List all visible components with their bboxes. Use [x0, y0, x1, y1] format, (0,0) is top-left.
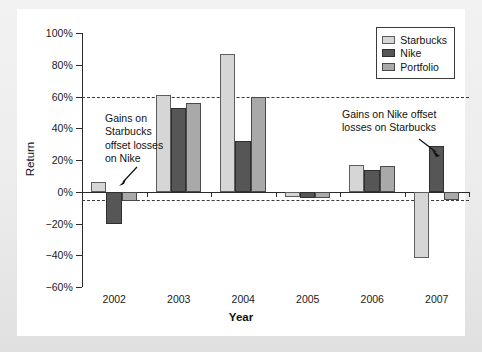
x-tick: [82, 192, 83, 197]
bar-portfolio-2005: [315, 192, 330, 198]
bar-nike-2003: [171, 108, 186, 192]
annotation-left-arrow: [115, 165, 141, 187]
x-tick: [211, 192, 212, 197]
bar-starbucks-2005: [285, 192, 300, 197]
legend-item-starbucks: Starbucks: [382, 34, 447, 46]
legend-label-nike: Nike: [400, 47, 421, 59]
bar-portfolio-2002: [122, 192, 137, 202]
bar-portfolio-2003: [186, 103, 201, 192]
legend-item-portfolio: Portfolio: [382, 61, 447, 73]
legend-item-nike: Nike: [382, 47, 447, 59]
x-axis-label-2005: 2005: [296, 293, 319, 305]
bar-nike-2004: [235, 141, 250, 192]
annotation-right-arrow: [417, 137, 447, 159]
bar-starbucks-2002: [91, 182, 106, 192]
legend-swatch-nike: [382, 49, 395, 57]
y-tick: [76, 160, 82, 161]
bar-portfolio-2004: [251, 97, 266, 192]
x-tick: [276, 192, 277, 197]
x-tick: [340, 192, 341, 197]
legend-label-starbucks: Starbucks: [400, 34, 447, 46]
x-axis-label-2002: 2002: [103, 293, 126, 305]
bar-nike-2002: [106, 192, 121, 224]
annotation-right: Gains on Nike offset losses on Starbucks: [342, 108, 436, 135]
y-tick-label: −40%: [45, 249, 73, 261]
y-tick-label: 80%: [52, 59, 73, 71]
y-tick-label: 0%: [58, 186, 73, 198]
x-tick: [405, 192, 406, 197]
x-axis-label-2007: 2007: [425, 293, 448, 305]
x-axis-label-2004: 2004: [232, 293, 255, 305]
bar-portfolio-2006: [380, 166, 395, 191]
y-axis-title: Return: [24, 142, 36, 177]
y-tick-label: 40%: [52, 122, 73, 134]
y-tick: [76, 65, 82, 66]
bar-portfolio-2007: [444, 192, 459, 200]
legend-swatch-portfolio: [382, 63, 395, 71]
x-tick: [147, 192, 148, 197]
y-tick-label: 20%: [52, 154, 73, 166]
bar-nike-2006: [364, 170, 379, 192]
bar-starbucks-2007: [414, 192, 429, 259]
y-tick: [76, 287, 82, 288]
x-tick: [469, 192, 470, 197]
annotation-left: Gains on Starbucks offset losses on Nike: [105, 112, 163, 166]
bar-starbucks-2004: [220, 54, 235, 192]
y-tick: [76, 224, 82, 225]
reference-line: [82, 97, 469, 98]
y-tick-label: 100%: [46, 27, 73, 39]
legend-label-portfolio: Portfolio: [400, 61, 439, 73]
y-tick: [76, 255, 82, 256]
bar-nike-2005: [300, 192, 315, 198]
x-axis-title: Year: [17, 311, 465, 323]
y-tick-label: −20%: [45, 218, 73, 230]
reference-line: [82, 200, 469, 201]
y-tick: [76, 128, 82, 129]
bar-starbucks-2006: [349, 165, 364, 192]
y-tick: [76, 33, 82, 34]
chart-screenshot: Return Year 100%80%60%40%20%0%−20%−40%−6…: [0, 0, 482, 352]
y-tick-label: 60%: [52, 91, 73, 103]
legend: Starbucks Nike Portfolio: [376, 27, 455, 79]
chart-card: Return Year 100%80%60%40%20%0%−20%−40%−6…: [17, 9, 465, 336]
x-axis-label-2006: 2006: [361, 293, 384, 305]
x-axis-label-2003: 2003: [167, 293, 190, 305]
legend-swatch-starbucks: [382, 36, 395, 44]
y-tick-label: −60%: [45, 281, 73, 293]
